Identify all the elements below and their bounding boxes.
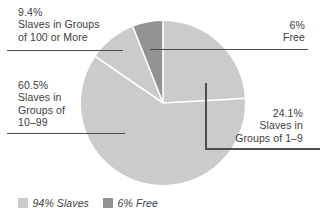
callout-text-line: of 100 or More <box>18 31 100 43</box>
callout-text-line: 60.5% <box>18 79 65 91</box>
callout-slaves-groups-10-99: 60.5% Slaves in Groups of 10–99 <box>18 79 65 128</box>
callout-free: 6% Free <box>283 19 305 44</box>
callout-text-line: Slaves in <box>18 91 65 103</box>
pie-chart-figure: 9.4% Slaves in Groups of 100 or More 6% … <box>0 0 326 221</box>
pie-slice-groups-1-9 <box>163 21 245 103</box>
legend-label-slaves: 94% Slaves <box>33 197 89 209</box>
callout-text-line: Free <box>283 31 305 43</box>
callout-text-line: 6% <box>283 19 305 31</box>
callout-text-line: 24.1% <box>235 107 303 119</box>
leader-line-groups-1-9-horizontal <box>205 148 320 150</box>
callout-slaves-groups-1-9: 24.1% Slaves in Groups of 1–9 <box>235 107 303 144</box>
legend-item-free: 6% Free <box>103 197 158 209</box>
legend-label-free: 6% Free <box>118 197 158 209</box>
callout-text-line: 10–99 <box>18 116 65 128</box>
legend-item-slaves: 94% Slaves <box>18 197 89 209</box>
leader-line-free <box>150 49 308 50</box>
callout-text-line: 9.4% <box>18 6 100 18</box>
callout-text-line: Groups of <box>18 104 65 116</box>
callout-text-line: Slaves in Groups <box>18 18 100 30</box>
callout-slaves-groups-100-or-more: 9.4% Slaves in Groups of 100 or More <box>18 6 100 43</box>
callout-text-line: Slaves in <box>235 119 303 131</box>
legend-swatch-free <box>103 198 113 208</box>
callout-text-line: Groups of 1–9 <box>235 132 303 144</box>
leader-line-groups-10-99 <box>7 133 125 134</box>
pie-chart <box>81 21 245 185</box>
leader-line-groups-100-or-more <box>7 50 123 51</box>
legend: 94% Slaves 6% Free <box>0 197 326 211</box>
leader-line-groups-1-9-vertical <box>205 83 207 149</box>
legend-swatch-slaves <box>18 198 28 208</box>
